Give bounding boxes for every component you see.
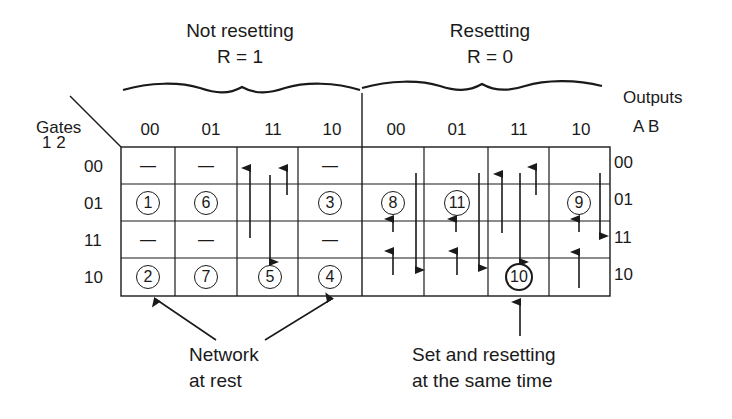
stable-state-3: 3	[298, 184, 362, 221]
network-label: Network	[189, 344, 259, 366]
stable-state-5: 5	[237, 258, 298, 296]
cell-dash: —	[175, 221, 237, 258]
cell-dash: —	[121, 221, 175, 258]
stable-state-1: 1	[121, 184, 175, 221]
stable-state-4: 4	[298, 258, 362, 296]
same-time-label: at the same time	[412, 370, 552, 392]
brace-left	[123, 84, 360, 93]
brace-right	[362, 81, 602, 90]
stable-state-7: 7	[175, 258, 237, 296]
cell-dash: —	[298, 221, 362, 258]
cell-dash: —	[175, 147, 237, 184]
stable-state-6: 6	[175, 184, 237, 221]
at-rest-label: at rest	[189, 370, 242, 392]
stable-state-2: 2	[121, 258, 175, 296]
stable-state-9: 9	[549, 184, 610, 221]
cell-dash: —	[298, 147, 362, 184]
stable-state-11: 11	[424, 184, 488, 221]
set-resetting-label: Set and resetting	[412, 344, 556, 366]
stable-state-8: 8	[362, 184, 424, 221]
cell-dash: —	[121, 147, 175, 184]
stable-state-10: 10	[488, 258, 549, 296]
